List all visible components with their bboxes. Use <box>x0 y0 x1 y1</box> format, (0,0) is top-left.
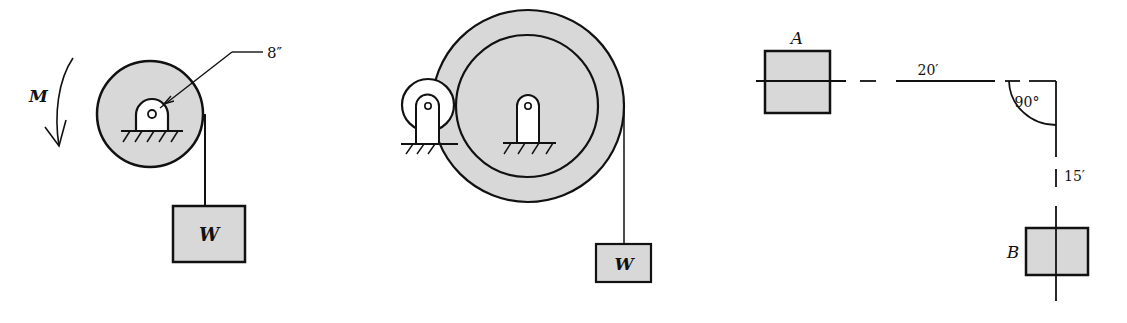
moment-arrow <box>57 58 73 146</box>
moment-arrowhead <box>45 120 66 146</box>
idler-bracket <box>416 95 439 145</box>
weight-label: W <box>199 224 221 245</box>
angle-label: 90° <box>1015 94 1040 110</box>
drum-pin <box>525 103 531 109</box>
block-b-label: B <box>1006 242 1020 262</box>
idler-pin <box>425 103 431 109</box>
diagram-canvas: M 8″ W <box>0 0 1127 323</box>
block-a <box>765 51 830 113</box>
weight-label: W <box>614 254 635 274</box>
block-b <box>1026 228 1088 275</box>
radius-label: 8″ <box>267 44 283 62</box>
figure-1-pulley-moment: M 8″ W <box>28 44 283 262</box>
horizontal-distance-label: 20′ <box>918 62 939 78</box>
figure-2-drum-idler: W <box>401 10 651 282</box>
pin <box>148 110 156 118</box>
vertical-distance-label: 15′ <box>1064 168 1085 184</box>
figure-3-path-ab: A 20′ 90° 15′ B <box>756 28 1088 301</box>
block-a-label: A <box>789 28 803 48</box>
moment-label: M <box>28 86 49 106</box>
idler-ground-hatch <box>406 144 435 154</box>
